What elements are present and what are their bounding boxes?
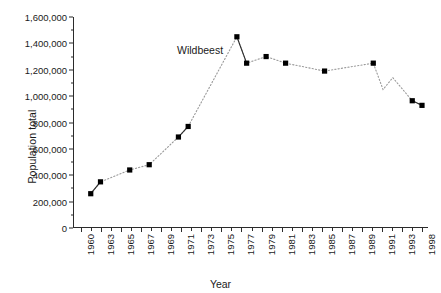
x-tick-mark xyxy=(282,228,283,232)
x-minor-tick-mark xyxy=(412,228,413,231)
x-tick-mark xyxy=(101,228,102,232)
x-tick-mark xyxy=(382,228,383,232)
x-minor-tick-mark xyxy=(191,228,192,231)
x-minor-tick-mark xyxy=(292,228,293,231)
data-series xyxy=(73,17,428,228)
data-point-marker xyxy=(98,179,103,184)
y-tick-label: 1,200,000 xyxy=(25,64,73,75)
wildebeest-population-chart: Population total Year 0200,000400,000600… xyxy=(0,0,441,293)
x-tick-mark xyxy=(322,228,323,232)
x-axis-title: Year xyxy=(0,278,441,290)
x-tick-label: 1963 xyxy=(105,234,116,255)
plot-area: 0200,000400,000600,000800,0001,000,0001,… xyxy=(73,17,428,228)
x-tick-mark xyxy=(81,228,82,232)
x-tick-label: 1977 xyxy=(245,234,256,255)
x-tick-label: 1993 xyxy=(406,234,417,255)
x-minor-tick-mark xyxy=(352,228,353,231)
x-tick-label: 1975 xyxy=(225,234,236,255)
x-tick-label: 1969 xyxy=(165,234,176,255)
y-tick-label: 800,000 xyxy=(33,117,73,128)
x-minor-tick-mark xyxy=(211,228,212,231)
y-tick-label: 1,000,000 xyxy=(25,91,73,102)
data-point-marker xyxy=(371,61,376,66)
data-point-marker xyxy=(88,191,93,196)
x-tick-mark xyxy=(201,228,202,232)
x-tick-mark xyxy=(161,228,162,232)
data-point-marker xyxy=(410,98,415,103)
x-tick-label: 1960 xyxy=(85,234,96,255)
x-tick-label: 1998 xyxy=(426,234,437,255)
y-tick-label: 400,000 xyxy=(33,170,73,181)
data-point-marker xyxy=(244,61,249,66)
x-tick-mark xyxy=(402,228,403,232)
x-tick-label: 1985 xyxy=(326,234,337,255)
y-tick-label: 600,000 xyxy=(33,143,73,154)
x-minor-tick-mark xyxy=(151,228,152,231)
x-tick-label: 1979 xyxy=(266,234,277,255)
x-tick-label: 1983 xyxy=(306,234,317,255)
data-point-marker xyxy=(176,134,181,139)
x-tick-mark xyxy=(241,228,242,232)
x-tick-mark xyxy=(362,228,363,232)
x-tick-label: 1965 xyxy=(125,234,136,255)
x-tick-label: 1971 xyxy=(185,234,196,255)
y-tick-label: 1,400,000 xyxy=(25,38,73,49)
y-tick-label: 1,600,000 xyxy=(25,12,73,23)
data-point-marker xyxy=(283,61,288,66)
x-tick-label: 1973 xyxy=(205,234,216,255)
data-point-marker xyxy=(127,167,132,172)
x-minor-tick-mark xyxy=(111,228,112,231)
x-tick-label: 1991 xyxy=(386,234,397,255)
x-tick-mark xyxy=(342,228,343,232)
data-point-marker xyxy=(186,124,191,129)
x-tick-mark xyxy=(141,228,142,232)
x-tick-mark xyxy=(262,228,263,232)
data-point-marker xyxy=(234,34,239,39)
data-point-marker xyxy=(419,103,424,108)
x-minor-tick-mark xyxy=(392,228,393,231)
x-minor-tick-mark xyxy=(231,228,232,231)
x-tick-label: 1987 xyxy=(346,234,357,255)
series-solid-segment xyxy=(237,37,247,63)
x-tick-mark xyxy=(121,228,122,232)
x-minor-tick-mark xyxy=(131,228,132,231)
x-minor-tick-mark xyxy=(171,228,172,231)
x-minor-tick-mark xyxy=(91,228,92,231)
data-point-marker xyxy=(147,162,152,167)
data-point-marker xyxy=(322,68,327,73)
x-tick-mark xyxy=(302,228,303,232)
x-tick-label: 1967 xyxy=(145,234,156,255)
x-minor-tick-mark xyxy=(272,228,273,231)
series-connector-line xyxy=(91,37,422,194)
x-minor-tick-mark xyxy=(312,228,313,231)
x-tick-mark xyxy=(181,228,182,232)
x-tick-label: 1989 xyxy=(366,234,377,255)
x-minor-tick-mark xyxy=(252,228,253,231)
x-minor-tick-mark xyxy=(372,228,373,231)
x-minor-tick-mark xyxy=(332,228,333,231)
x-tick-label: 1981 xyxy=(286,234,297,255)
series-annotation-label: Wildbeest xyxy=(177,44,223,56)
series-markers xyxy=(88,34,424,196)
y-tick-label: 200,000 xyxy=(33,196,73,207)
x-tick-mark xyxy=(422,228,423,232)
x-tick-mark xyxy=(221,228,222,232)
data-point-marker xyxy=(264,54,269,59)
